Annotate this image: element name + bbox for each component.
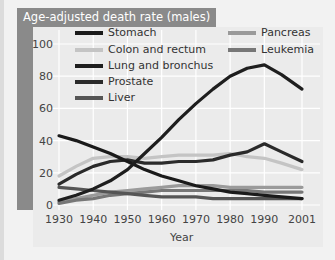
x-tick-label: 1940 xyxy=(79,213,107,226)
x-tick-label: 2001 xyxy=(288,213,316,226)
x-tick-label: 1930 xyxy=(45,213,73,226)
y-tick-label: 80 xyxy=(39,70,53,83)
chart: 020406080100 193019401950196019701980199… xyxy=(0,0,335,260)
legend: StomachColon and rectumLung and bronchus… xyxy=(75,26,314,104)
series-line-prostate xyxy=(59,144,302,184)
y-tick-label: 100 xyxy=(32,38,53,51)
y-tick-label: 20 xyxy=(39,167,53,180)
y-tick-label: 0 xyxy=(46,199,53,212)
legend-swatch xyxy=(228,31,256,35)
x-tick-label: 1990 xyxy=(250,213,278,226)
x-axis-label: Year xyxy=(169,231,194,244)
legend-label: Lung and bronchus xyxy=(108,59,214,72)
legend-swatch xyxy=(75,96,103,100)
data-lines xyxy=(59,65,302,204)
y-tick-label: 60 xyxy=(39,102,53,115)
legend-label: Liver xyxy=(108,91,135,104)
legend-swatch xyxy=(75,31,103,35)
legend-label: Prostate xyxy=(108,75,154,88)
y-axis-ticks: 020406080100 xyxy=(32,38,53,212)
legend-label: Leukemia xyxy=(261,43,314,56)
legend-label: Pancreas xyxy=(261,26,311,39)
legend-label: Stomach xyxy=(108,26,157,39)
legend-swatch xyxy=(75,64,103,68)
x-axis-ticks: 19301940195019601970198019902001 xyxy=(45,213,316,226)
legend-label: Colon and rectum xyxy=(108,43,206,56)
x-tick-label: 1970 xyxy=(182,213,210,226)
x-tick-label: 1950 xyxy=(113,213,141,226)
legend-swatch xyxy=(75,48,103,52)
legend-swatch xyxy=(75,80,103,84)
y-tick-label: 40 xyxy=(39,135,53,148)
legend-swatch xyxy=(228,48,256,52)
x-tick-label: 1960 xyxy=(148,213,176,226)
x-tick-label: 1980 xyxy=(216,213,244,226)
